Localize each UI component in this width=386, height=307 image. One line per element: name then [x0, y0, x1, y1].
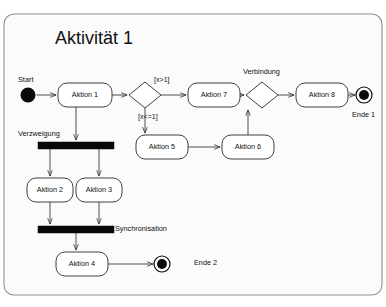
aktion-1[interactable]: Aktion 1 [58, 83, 112, 107]
aktion-8[interactable]: Aktion 8 [296, 83, 348, 107]
start-node[interactable] [21, 88, 36, 103]
aktion-6[interactable]: Aktion 6 [222, 135, 274, 159]
aktion-3[interactable]: Aktion 3 [76, 178, 122, 202]
initial-node-layer [21, 88, 36, 103]
aktion-3-label: Aktion 3 [86, 185, 112, 194]
aktion-6-label: Aktion 6 [235, 142, 261, 151]
aktion-5[interactable]: Aktion 5 [136, 135, 188, 159]
anno-ende-2: Ende 2 [194, 258, 217, 267]
aktion-7-label: Aktion 7 [201, 90, 227, 99]
anno-verbindung: Verbindung [243, 67, 280, 76]
aktion-7[interactable]: Aktion 7 [188, 83, 240, 107]
aktion-1-label: Aktion 1 [72, 90, 98, 99]
aktion-4[interactable]: Aktion 4 [56, 252, 108, 276]
aktion-4-label: Aktion 4 [69, 259, 95, 268]
guard-gt: [x>1] [154, 76, 170, 84]
guard-lte: [x<=1] [138, 113, 158, 121]
fork-bar [38, 142, 114, 149]
aktion-2[interactable]: Aktion 2 [27, 178, 73, 202]
ende-1-dot [359, 90, 369, 100]
activity-diagram-svg: Aktion 1Aktion 7Aktion 8Aktion 5Aktion 6… [0, 0, 386, 307]
anno-ende-1: Ende 1 [352, 110, 375, 119]
join-bar [38, 226, 114, 233]
aktion-5-label: Aktion 5 [149, 142, 175, 151]
anno-start: Start [18, 75, 33, 84]
ende-1[interactable] [356, 87, 372, 103]
ende-2-dot [157, 259, 167, 269]
activity-diagram-canvas: Aktion 1Aktion 7Aktion 8Aktion 5Aktion 6… [0, 0, 386, 307]
ende-2[interactable] [154, 256, 170, 272]
anno-verzweigung: Verzweigung [18, 129, 60, 138]
anno-synchronisation: Synchronisation [115, 224, 167, 233]
diagram-title: Aktivität 1 [55, 28, 133, 48]
aktion-8-label: Aktion 8 [309, 90, 335, 99]
aktion-2-label: Aktion 2 [37, 185, 63, 194]
